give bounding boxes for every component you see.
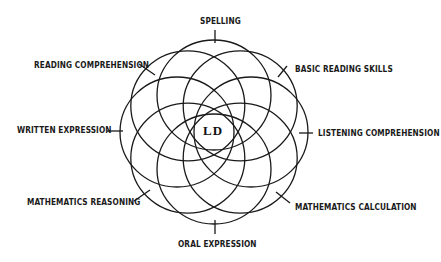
label-oral-expression: ORAL EXPRESSION [178, 240, 257, 249]
label-basic-reading-skills: BASIC READING SKILLS [295, 65, 393, 74]
label-listening-comprehension: LISTENING COMPREHENSION [318, 129, 440, 138]
center-label-ld: LD [202, 124, 224, 138]
label-reading-comprehension: READING COMPREHENSION [34, 61, 149, 70]
label-mathematics-reasoning: MATHEMATICS REASONING [27, 198, 140, 207]
label-mathematics-calculation: MATHEMATICS CALCULATION [295, 203, 417, 212]
label-written-expression: WRITTEN EXPRESSION [17, 126, 112, 135]
label-spelling: SPELLING [200, 17, 241, 26]
